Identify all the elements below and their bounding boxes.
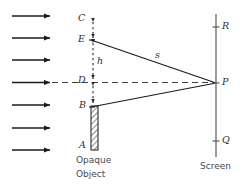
- annotation-s: s: [155, 50, 160, 60]
- incoming-rays: [12, 16, 50, 150]
- opaque-object-bar: [91, 106, 98, 150]
- point-label-Q: Q: [222, 135, 230, 145]
- diffraction-diagram: C E D B A R P Q h s Opaque Object Screen: [0, 0, 243, 185]
- point-label-A: A: [79, 140, 86, 150]
- point-label-B: B: [79, 100, 86, 110]
- screen-group: [213, 14, 220, 157]
- opaque-object-hatch: [91, 106, 98, 150]
- caption-opaque-line2: Object: [76, 170, 105, 179]
- diagram-canvas: [0, 0, 243, 185]
- diffracted-rays: [89, 40, 216, 107]
- point-label-D: D: [78, 75, 86, 85]
- point-label-P: P: [222, 77, 228, 87]
- caption-screen: Screen: [200, 162, 231, 171]
- caption-opaque-line1: Opaque: [76, 156, 111, 165]
- ray-B-to-P: [91, 83, 216, 107]
- point-label-E: E: [78, 34, 85, 44]
- point-label-R: R: [222, 21, 229, 31]
- ray-E-to-P: [91, 40, 216, 83]
- point-label-C: C: [78, 13, 85, 23]
- annotation-h: h: [97, 56, 103, 66]
